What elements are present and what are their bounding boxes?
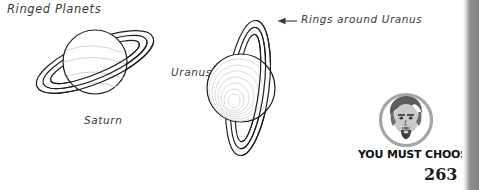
- bearded-face-icon: [378, 92, 434, 148]
- page-number: 263: [424, 165, 457, 184]
- page-edge-band: [464, 0, 479, 190]
- uranus-label: Uranus: [171, 66, 212, 78]
- saturn-label: Saturn: [84, 114, 122, 126]
- rings-around-uranus-callout: Rings around Uranus: [301, 13, 422, 25]
- badge-caption: YOU MUST CHOOSE!: [358, 148, 464, 161]
- you-must-choose-badge: YOU MUST CHOOSE!: [358, 92, 464, 158]
- callout-arrow-icon: [279, 19, 297, 24]
- page-canvas: Ringed Planets: [0, 0, 479, 190]
- saturn-figure: [29, 18, 161, 106]
- uranus-figure: [207, 18, 277, 158]
